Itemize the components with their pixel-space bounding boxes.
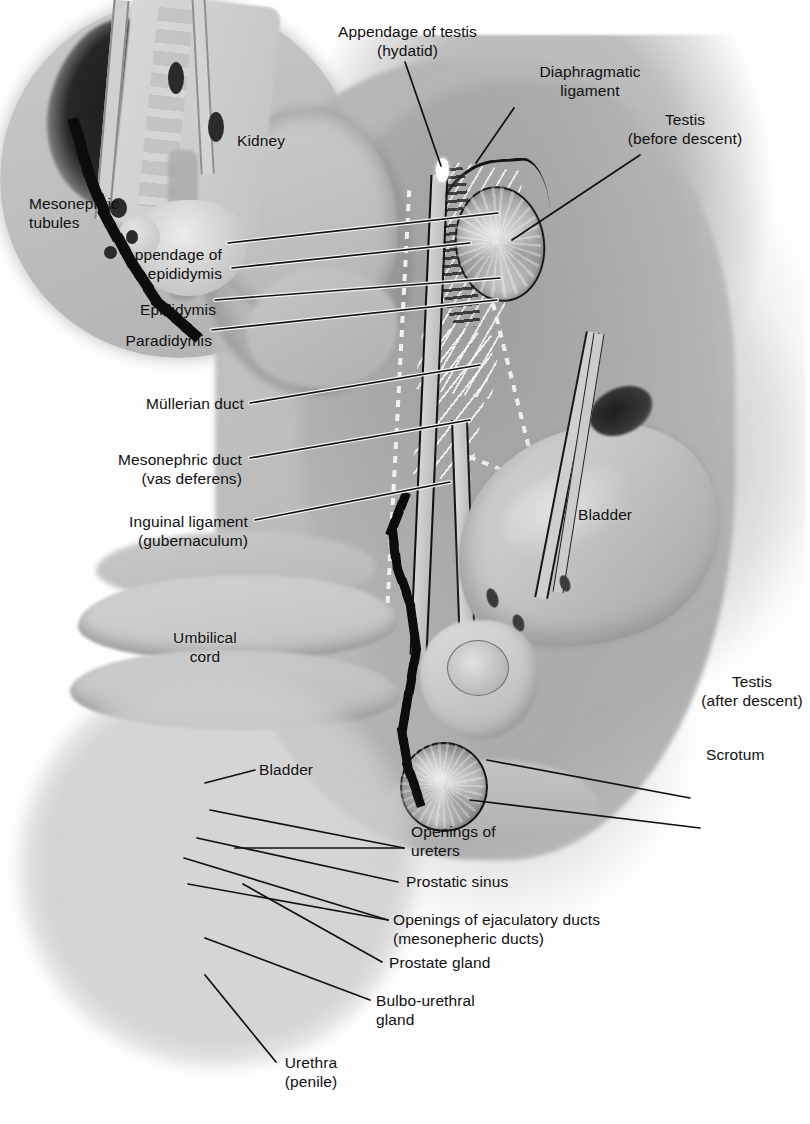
label-openings-of-ureters: Openings of ureters bbox=[411, 822, 496, 860]
label-inguinal-ligament: Inguinal ligament (gubernaculum) bbox=[0, 512, 248, 550]
label-mesonephric-duct: Mesonephric duct (vas deferens) bbox=[0, 450, 242, 488]
label-epididymis: Epididymis bbox=[0, 300, 216, 319]
label-kidney: Kidney bbox=[237, 131, 285, 150]
label-bulbo-urethral-gland: Bulbo-urethral gland bbox=[376, 991, 475, 1029]
label-prostatic-sinus: Prostatic sinus bbox=[406, 872, 508, 891]
figure-canvas: Appendage of testis (hydatid) Diaphragma… bbox=[0, 0, 810, 1124]
label-mullerian-duct: Müllerian duct bbox=[0, 394, 244, 413]
label-umbilical-cord: Umbilical cord bbox=[145, 628, 265, 666]
label-testis-after-descent: Testis (after descent) bbox=[694, 672, 810, 710]
label-scrotum: Scrotum bbox=[706, 745, 764, 764]
label-appendage-of-testis: Appendage of testis (hydatid) bbox=[300, 22, 515, 60]
label-paradidymis: Paradidymis bbox=[0, 331, 212, 350]
label-appendage-of-epididymis: Appendage of epididymis bbox=[0, 245, 222, 283]
label-openings-of-ejaculatory-ducts: Openings of ejaculatory ducts (mesonephe… bbox=[393, 910, 600, 948]
label-urethra-penile: Urethra (penile) bbox=[256, 1053, 366, 1091]
label-mesonephric-tubules: Mesonephric tubules bbox=[29, 194, 119, 232]
label-testis-before-descent: Testis (before descent) bbox=[570, 110, 800, 148]
label-bladder-inset: Bladder bbox=[259, 760, 313, 779]
label-prostate-gland: Prostate gland bbox=[389, 953, 490, 972]
label-bladder-main: Bladder bbox=[578, 505, 632, 524]
label-diaphragmatic-ligament: Diaphragmatic ligament bbox=[495, 62, 685, 100]
